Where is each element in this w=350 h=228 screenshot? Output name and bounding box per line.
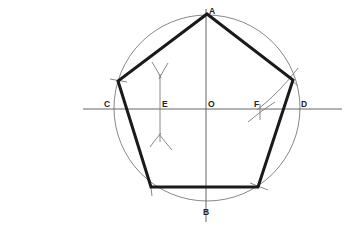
bisector-arc-upper-2	[159, 63, 168, 79]
arc-side-length	[257, 68, 298, 110]
circumscribed-circle	[114, 15, 300, 201]
label-f: F	[254, 99, 259, 109]
label-a: A	[209, 6, 215, 16]
label-d: D	[301, 99, 307, 109]
label-o: O	[208, 99, 215, 109]
bisector-arc-lower-2	[159, 134, 172, 150]
arc-e-radius-ea-to-f	[248, 102, 275, 122]
pentagon-construction-diagram: A B C E O F D	[0, 0, 350, 228]
bisector-arc-upper-1	[152, 62, 161, 78]
label-c: C	[104, 99, 110, 109]
label-e: E	[162, 99, 168, 109]
label-b: B	[203, 207, 209, 217]
